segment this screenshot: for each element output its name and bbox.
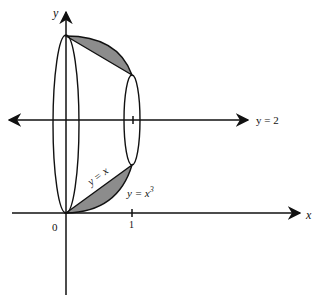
axis-of-rotation-label: y = 2 [256, 114, 279, 126]
solid-of-revolution-diagram: y x y = 2 0 1 y = x y = x3 [0, 0, 318, 301]
curve-label-y-equals-x-cubed: y = x3 [126, 185, 154, 199]
x-tick-1-label: 1 [129, 219, 134, 230]
curve-label-cubic-exponent: 3 [149, 185, 154, 194]
origin-label: 0 [52, 221, 58, 233]
y-axis-label: y [52, 6, 59, 20]
x-axis-label: x [305, 208, 312, 222]
curve-label-cubic-base: y = x [126, 187, 150, 199]
